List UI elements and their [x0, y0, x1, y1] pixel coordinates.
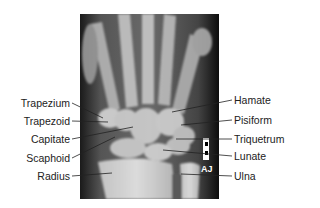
label-hamate: Hamate	[234, 94, 271, 106]
label-lunate: Lunate	[234, 150, 266, 162]
label-capitate: Capitate	[31, 133, 70, 145]
xray-illustration: AJ	[80, 14, 219, 199]
label-scaphoid: Scaphoid	[26, 152, 70, 164]
wrist-xray-image: AJ	[80, 14, 219, 199]
label-ulna: Ulna	[234, 170, 256, 182]
label-pisiform: Pisiform	[234, 114, 272, 126]
label-trapezoid: Trapezoid	[24, 115, 70, 127]
svg-text:AJ: AJ	[201, 164, 213, 174]
label-trapezium: Trapezium	[21, 97, 70, 109]
label-triquetrum: Triquetrum	[234, 133, 284, 145]
label-radius: Radius	[37, 170, 70, 182]
